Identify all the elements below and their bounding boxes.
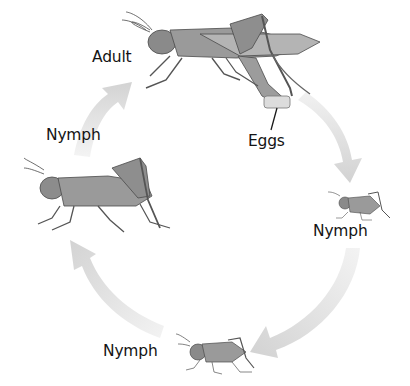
stage-label-nymph-large: Nymph bbox=[46, 126, 101, 144]
stage-label-eggs: Eggs bbox=[248, 132, 285, 150]
medium-nymph-illustration bbox=[176, 334, 254, 374]
arrow-nymph-to-nymph-lower-right bbox=[250, 248, 360, 358]
arrow-nymph-to-nymph-lower-left bbox=[70, 240, 164, 338]
stage-label-nymph-small: Nymph bbox=[313, 222, 368, 240]
arrow-eggs-to-nymph bbox=[298, 92, 362, 183]
stage-label-nymph-medium: Nymph bbox=[103, 342, 158, 360]
eggs-leader-line bbox=[271, 108, 277, 130]
large-nymph-illustration bbox=[24, 158, 170, 232]
arrow-nymph-to-adult bbox=[74, 82, 132, 157]
diagram-artwork bbox=[0, 0, 410, 386]
life-cycle-diagram: Adult Eggs Nymph Nymph Nymph bbox=[0, 0, 410, 386]
small-nymph-illustration bbox=[328, 192, 390, 220]
stage-label-adult: Adult bbox=[92, 48, 131, 66]
adult-grasshopper-illustration bbox=[122, 12, 320, 108]
